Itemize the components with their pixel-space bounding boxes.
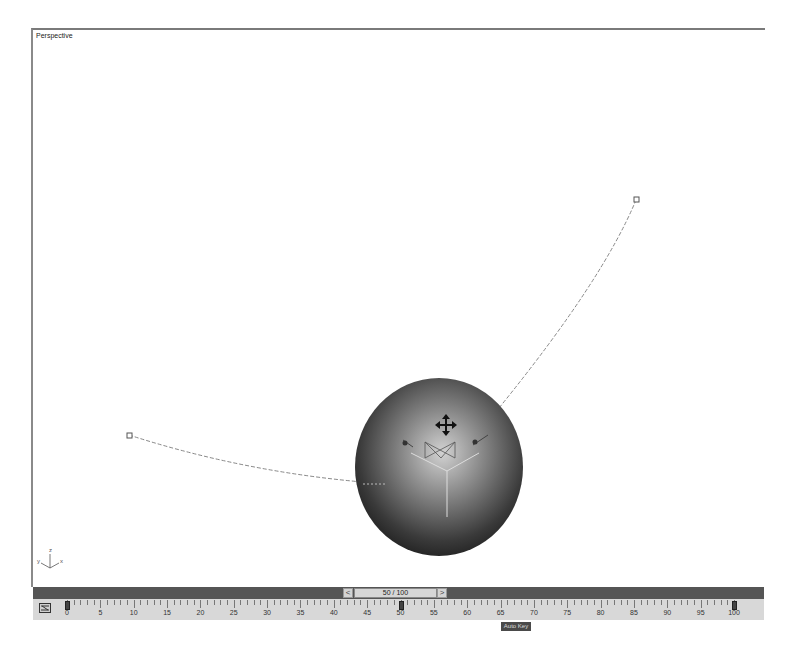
ruler-tick [320,600,321,605]
ruler-tick [334,600,335,608]
ruler-tick [434,600,435,608]
ruler-tick [107,600,108,605]
ruler-tick [614,600,615,605]
ruler-tick [407,600,408,605]
ruler-tick [534,600,535,608]
ruler-label: 35 [297,609,305,616]
ruler-tick [587,600,588,605]
time-slider[interactable]: < 50 / 100 > [33,587,764,599]
next-frame-button[interactable]: > [437,588,447,598]
ruler-tick [100,600,101,608]
ruler-tick [87,600,88,605]
ruler-tick [654,600,655,605]
ruler-tick [207,600,208,605]
ruler-tick [160,600,161,605]
ruler-tick [647,600,648,605]
ruler-tick [240,600,241,605]
keyframe-marker[interactable] [399,601,404,610]
ruler-tick [234,600,235,608]
auto-key-tooltip: Auto Key [501,622,531,631]
ruler-tick [581,600,582,605]
ruler-tick [327,600,328,605]
ruler-tick [387,600,388,605]
ruler-label: 45 [363,609,371,616]
axis-tripod-icon [41,554,59,568]
ruler-tick [487,600,488,605]
ruler-tick [641,600,642,605]
ruler-label: 65 [497,609,505,616]
ruler-tick [454,600,455,605]
ruler-tick [94,600,95,605]
ruler-label: 75 [563,609,571,616]
ruler-tick [74,600,75,605]
ruler-tick [574,600,575,605]
ruler-tick [287,600,288,605]
ruler-tick [427,600,428,605]
ruler-label: 15 [163,609,171,616]
prev-frame-button[interactable]: < [343,588,353,598]
ruler-tick [727,600,728,605]
ruler-tick [627,600,628,605]
ruler-tick [394,600,395,605]
ruler-tick [80,600,81,605]
ruler-tick [561,600,562,605]
mini-curve-editor-icon[interactable] [39,603,51,613]
keyframe-marker[interactable] [732,601,737,610]
ruler-tick [707,600,708,605]
ruler-tick [527,600,528,605]
ruler-tick [247,600,248,605]
ruler-tick [354,600,355,605]
ruler-label: 60 [463,609,471,616]
ruler-label: 10 [130,609,138,616]
ruler-tick [507,600,508,605]
axis-label-y: y [37,558,40,564]
ruler-tick [120,600,121,605]
ruler-tick [674,600,675,605]
ruler-tick [134,600,135,608]
ruler-label: 0 [65,609,69,616]
ruler-tick [227,600,228,605]
ruler-tick [514,600,515,605]
ruler-label: 40 [330,609,338,616]
ruler-tick [127,600,128,605]
ruler-tick [274,600,275,605]
ruler-tick [667,600,668,608]
ruler-tick [594,600,595,605]
ruler-tick [267,600,268,608]
ruler-tick [467,600,468,608]
ruler-tick [481,600,482,605]
scene-canvas[interactable]: z y x [33,30,767,589]
track-bar[interactable]: 0510152025303540455055606570758085909510… [33,599,764,620]
ruler-tick [140,600,141,605]
ruler-tick [260,600,261,605]
ruler-tick [661,600,662,605]
ruler-tick [180,600,181,605]
ruler-tick [554,600,555,605]
ruler-tick [300,600,301,608]
ruler-tick [414,600,415,605]
ruler-label: 100 [728,609,740,616]
ruler-tick [714,600,715,605]
ruler-tick [547,600,548,605]
perspective-viewport[interactable]: Perspective [31,28,765,587]
ruler-tick [461,600,462,605]
ruler-tick [501,600,502,608]
ruler-tick [174,600,175,605]
ruler-tick [681,600,682,605]
ruler-label: 90 [663,609,671,616]
time-slider-thumb[interactable]: 50 / 100 [354,588,437,598]
ruler-tick [474,600,475,605]
ruler-tick [541,600,542,605]
ruler-tick [694,600,695,605]
ruler-label: 20 [196,609,204,616]
ruler-tick [294,600,295,605]
trajectory-start-key[interactable] [127,433,132,438]
ruler-tick [634,600,635,608]
ruler-tick [200,600,201,608]
trajectory-end-key[interactable] [634,197,639,202]
ruler-tick [494,600,495,605]
ruler-tick [701,600,702,608]
ruler-label: 5 [98,609,102,616]
ruler-tick [687,600,688,605]
keyframe-marker[interactable] [65,601,70,610]
